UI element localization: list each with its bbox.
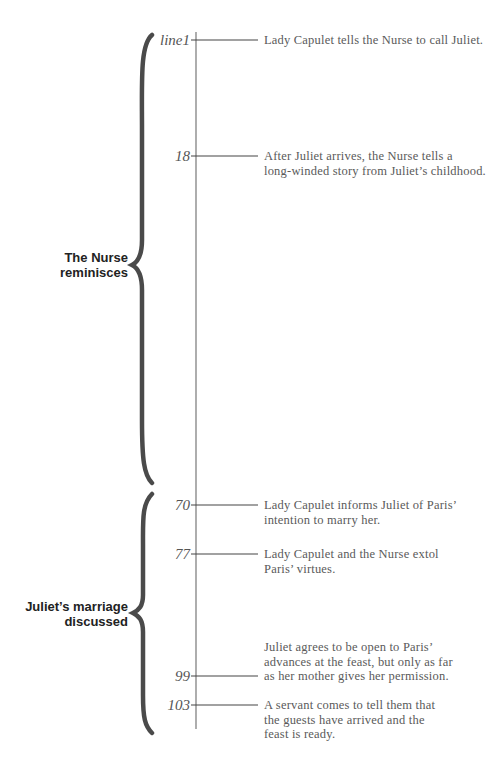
event-text-line: the guests have arrived and the (264, 713, 494, 728)
section-label-line: Juliet’s marriage (3, 599, 128, 614)
line-number: 70 (130, 497, 190, 513)
event-description: Lady Capulet and the Nurse extol Paris’ … (264, 547, 494, 576)
event-description: A servant comes to tell them that the gu… (264, 698, 494, 742)
event-description: Lady Capulet tells the Nurse to call Jul… (264, 33, 494, 48)
brace-nurse-reminisces (132, 35, 152, 483)
event-text-line: Juliet agrees to be open to Paris’ (264, 640, 494, 655)
line-number: 18 (130, 148, 190, 164)
line-number: 77 (130, 546, 190, 562)
event-text-line: feast is ready. (264, 727, 494, 742)
event-text-line: advances at the feast, but only as far (264, 655, 494, 670)
event-text-line: long-winded story from Juliet’s childhoo… (264, 164, 494, 179)
line-number: line1 (130, 32, 190, 48)
event-text-line: After Juliet arrives, the Nurse tells a (264, 149, 494, 164)
section-label-line: reminisces (3, 265, 128, 280)
section-label-line: discussed (3, 614, 128, 629)
event-text-line: intention to marry her. (264, 513, 494, 528)
event-description: After Juliet arrives, the Nurse tells a … (264, 149, 494, 178)
line-number: 99 (130, 668, 190, 684)
scene-timeline-diagram: The Nurse reminisces Juliet’s marriage d… (0, 0, 497, 781)
event-description: Juliet agrees to be open to Paris’ advan… (264, 640, 494, 684)
line-number: 103 (130, 697, 190, 713)
event-text-line: Paris’ virtues. (264, 562, 494, 577)
event-text-line: A servant comes to tell them that (264, 698, 494, 713)
event-text-line: Lady Capulet and the Nurse extol (264, 547, 494, 562)
section-label-line: The Nurse (3, 250, 128, 265)
section-label-marriage-discussed: Juliet’s marriage discussed (3, 599, 128, 629)
event-text-line: Lady Capulet tells the Nurse to call Jul… (264, 33, 494, 48)
event-description: Lady Capulet informs Juliet of Paris’ in… (264, 498, 494, 527)
section-label-nurse-reminisces: The Nurse reminisces (3, 250, 128, 280)
event-text-line: Lady Capulet informs Juliet of Paris’ (264, 498, 494, 513)
event-text-line: as her mother gives her permission. (264, 669, 494, 684)
